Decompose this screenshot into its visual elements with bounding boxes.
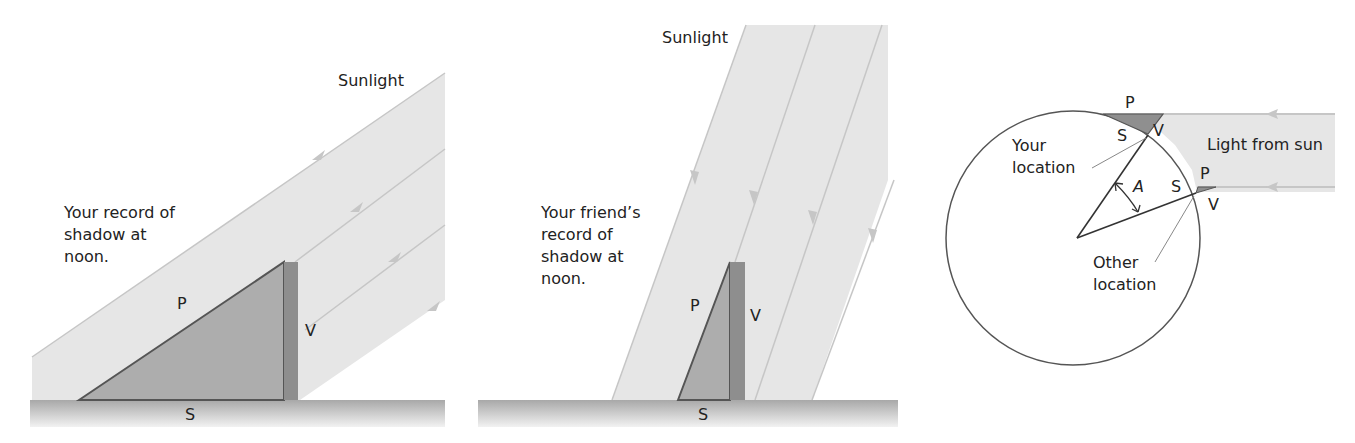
light-from-sun-label: Light from sun: [1207, 134, 1323, 156]
label-S: S: [698, 404, 708, 426]
angle-label-A: A: [1133, 176, 1144, 198]
gnomon-stick: [730, 262, 745, 400]
diagram-canvas: [0, 0, 1355, 443]
other-location-label: Other location: [1093, 252, 1156, 296]
sunlight-label: Sunlight: [662, 27, 728, 49]
caption-your-record: Your record of shadow at noon.: [64, 202, 175, 268]
ground: [30, 400, 445, 427]
sunlight-band: [612, 25, 888, 400]
label-V: V: [750, 305, 761, 327]
top-label-S: S: [1117, 125, 1127, 147]
side-label-P: P: [1200, 163, 1210, 185]
label-S: S: [185, 404, 195, 426]
sunlight-label: Sunlight: [338, 70, 404, 92]
gnomon-stick: [284, 262, 298, 400]
label-V: V: [305, 320, 316, 342]
top-label-V: V: [1153, 120, 1164, 142]
your-location-label: Your location: [1012, 135, 1075, 179]
top-label-P: P: [1125, 92, 1135, 114]
label-P: P: [690, 295, 700, 317]
side-label-V: V: [1208, 194, 1219, 216]
label-P: P: [177, 293, 187, 315]
ground: [478, 400, 898, 427]
side-label-S: S: [1171, 176, 1181, 198]
caption-friend-record: Your friend’s record of shadow at noon.: [541, 202, 640, 290]
